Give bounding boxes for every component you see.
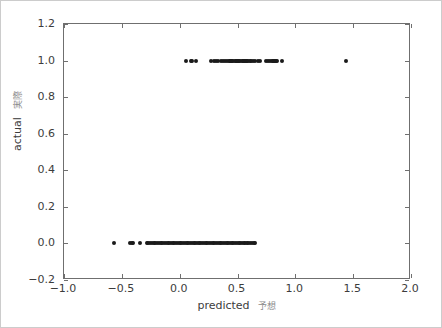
x-tick-label: 1.5 [343, 282, 361, 295]
x-tick [353, 24, 354, 28]
y-tick [64, 280, 68, 281]
x-tick-label: 0.5 [228, 282, 246, 295]
x-tick [180, 274, 181, 278]
data-point [131, 241, 135, 245]
y-tick [405, 243, 409, 244]
x-tick [238, 274, 239, 278]
data-point [253, 241, 257, 245]
y-tick [405, 134, 409, 135]
x-tick [64, 274, 65, 278]
x-tick [295, 24, 296, 28]
y-tick [405, 97, 409, 98]
x-tick-label: 2.0 [401, 282, 419, 295]
x-tick [411, 24, 412, 28]
y-tick [405, 170, 409, 171]
x-tick [411, 274, 412, 278]
y-tick [405, 24, 409, 25]
y-tick [405, 207, 409, 208]
data-point [280, 59, 284, 63]
data-point [194, 59, 198, 63]
data-point [344, 59, 348, 63]
figure-canvas: −1.0−0.50.00.51.01.52.0 −0.20.00.20.40.6… [0, 0, 442, 328]
y-tick [64, 170, 68, 171]
y-tick-label: 1.2 [38, 17, 56, 30]
y-axis-label-jp: 実際 [13, 91, 23, 109]
x-tick [295, 274, 296, 278]
x-tick-label: −0.5 [107, 282, 134, 295]
x-tick [122, 274, 123, 278]
data-point [275, 59, 279, 63]
data-point [190, 59, 194, 63]
x-tick-label: 0.0 [170, 282, 188, 295]
plot-axes-frame [63, 23, 410, 279]
y-axis-label: actual実際 [11, 91, 24, 151]
x-axis-label: predicted予想 [63, 299, 410, 312]
y-axis-label-en: actual [11, 117, 24, 151]
y-tick-label: 0.8 [38, 90, 56, 103]
x-axis-label-jp: 予想 [258, 301, 276, 311]
y-tick-label: −0.2 [28, 273, 55, 286]
x-tick [180, 24, 181, 28]
y-tick-label: 0.4 [38, 163, 56, 176]
data-point [258, 59, 262, 63]
y-tick [405, 61, 409, 62]
y-tick-label: 0.0 [38, 236, 56, 249]
data-point [138, 241, 142, 245]
y-tick-label: 1.0 [38, 53, 56, 66]
y-tick-label: 0.2 [38, 199, 56, 212]
scatter-plot-area [64, 24, 409, 278]
x-tick-label: 1.0 [286, 282, 304, 295]
x-axis-label-en: predicted [197, 299, 249, 312]
y-tick [64, 134, 68, 135]
y-tick [64, 207, 68, 208]
y-tick-label: 0.6 [38, 126, 56, 139]
y-tick [64, 97, 68, 98]
y-tick [64, 243, 68, 244]
y-tick [64, 61, 68, 62]
y-tick [405, 280, 409, 281]
x-tick [122, 24, 123, 28]
x-tick [238, 24, 239, 28]
x-tick [353, 274, 354, 278]
data-point [112, 241, 116, 245]
y-tick [64, 24, 68, 25]
data-point [184, 59, 188, 63]
